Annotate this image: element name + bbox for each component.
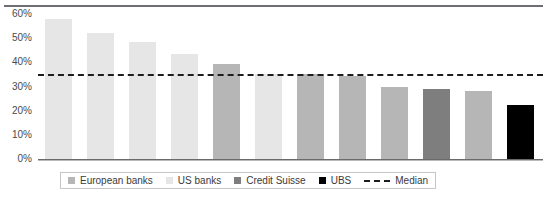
y-axis-tick-60: 60% bbox=[0, 9, 32, 19]
bar-5 bbox=[213, 64, 240, 159]
bar-chart: 60%50%40%30%20%10%0% European banksUS ba… bbox=[0, 0, 547, 197]
y-axis-tick-20: 20% bbox=[0, 106, 32, 116]
legend-item-european-banks[interactable]: European banks bbox=[68, 175, 153, 186]
bar-10 bbox=[423, 89, 450, 159]
bar-9 bbox=[381, 87, 408, 159]
chart-legend: European banksUS banksCredit SuisseUBSMe… bbox=[60, 172, 436, 189]
legend-swatch-icon bbox=[68, 177, 75, 184]
x-axis-line-shadow bbox=[38, 160, 543, 161]
legend-item-median[interactable]: Median bbox=[364, 175, 428, 186]
bar-6 bbox=[255, 74, 282, 159]
legend-swatch-icon bbox=[234, 177, 241, 184]
legend-label: Median bbox=[395, 175, 428, 186]
legend-swatch-icon bbox=[319, 177, 326, 184]
legend-label: UBS bbox=[331, 175, 352, 186]
legend-label: US banks bbox=[178, 175, 221, 186]
legend-dashed-line-icon bbox=[364, 180, 390, 182]
bar-4 bbox=[171, 54, 198, 159]
bar-1 bbox=[45, 19, 72, 159]
bar-12 bbox=[507, 105, 534, 159]
legend-item-ubs[interactable]: UBS bbox=[319, 175, 352, 186]
chart-title-truncated bbox=[6, 0, 406, 4]
y-axis-tick-40: 40% bbox=[0, 57, 32, 67]
bar-8 bbox=[339, 76, 366, 159]
y-axis-tick-0: 0% bbox=[0, 154, 32, 164]
top-divider-rule bbox=[4, 5, 543, 7]
bar-3 bbox=[129, 42, 156, 159]
y-axis-tick-50: 50% bbox=[0, 33, 32, 43]
legend-label: European banks bbox=[80, 175, 153, 186]
legend-label: Credit Suisse bbox=[246, 175, 305, 186]
legend-item-credit-suisse[interactable]: Credit Suisse bbox=[234, 175, 305, 186]
legend-item-us-banks[interactable]: US banks bbox=[166, 175, 221, 186]
bar-2 bbox=[87, 33, 114, 159]
bar-11 bbox=[465, 91, 492, 159]
median-line bbox=[38, 74, 543, 76]
y-axis-tick-30: 30% bbox=[0, 82, 32, 92]
y-axis-tick-10: 10% bbox=[0, 130, 32, 140]
bar-7 bbox=[297, 74, 324, 159]
legend-swatch-icon bbox=[166, 177, 173, 184]
